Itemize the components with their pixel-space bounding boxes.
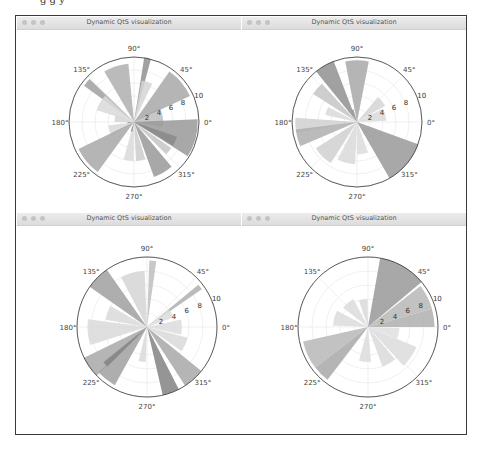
- angle-tick-label: 180°: [60, 324, 77, 332]
- radial-tick-label: 8: [181, 99, 185, 107]
- radial-tick-label: 6: [185, 307, 190, 315]
- radial-tick-label: 10: [212, 295, 221, 303]
- angle-tick-label: 45°: [418, 268, 430, 276]
- angle-tick-label: 90°: [128, 45, 140, 53]
- angle-tick-label: 225°: [296, 171, 313, 179]
- angle-tick-label: 0°: [204, 119, 212, 127]
- radial-tick-label: 4: [157, 109, 162, 117]
- radial-tick-label: 8: [404, 99, 408, 107]
- angle-tick-label: 180°: [281, 324, 298, 332]
- angle-tick-label: 45°: [180, 66, 192, 74]
- polar-chart-1: 0°45°90°135°180°225°270°315°246810: [52, 45, 212, 201]
- angle-tick-label: 90°: [351, 45, 363, 53]
- angle-tick-label: 180°: [275, 119, 292, 127]
- angle-tick-label: 315°: [194, 379, 211, 387]
- radial-tick-label: 4: [380, 109, 385, 117]
- angle-tick-label: 135°: [304, 268, 321, 276]
- radial-tick-label: 10: [194, 92, 203, 100]
- radial-tick-label: 8: [419, 302, 423, 310]
- angle-tick-label: 0°: [222, 324, 230, 332]
- angle-tick-label: 135°: [73, 66, 90, 74]
- angle-tick-label: 315°: [178, 171, 195, 179]
- radial-tick-label: 4: [172, 313, 177, 321]
- polar-bar: [147, 261, 156, 327]
- angle-tick-label: 45°: [403, 66, 415, 74]
- angle-tick-label: 90°: [362, 245, 374, 253]
- radial-tick-label: 10: [417, 92, 426, 100]
- radial-tick-label: 6: [406, 307, 411, 315]
- angle-tick-label: 315°: [415, 379, 432, 387]
- polar-chart-2: 0°45°90°135°180°225°270°315°246810: [275, 45, 435, 201]
- angle-tick-label: 225°: [304, 379, 321, 387]
- radial-tick-label: 2: [368, 114, 372, 122]
- radial-tick-label: 2: [159, 318, 163, 326]
- angle-tick-label: 315°: [401, 171, 418, 179]
- angle-tick-label: 135°: [83, 268, 100, 276]
- angle-tick-label: 0°: [427, 119, 435, 127]
- radial-tick-label: 6: [392, 104, 397, 112]
- angle-tick-label: 90°: [141, 245, 153, 253]
- angle-tick-label: 225°: [83, 379, 100, 387]
- radial-tick-label: 8: [198, 302, 202, 310]
- angle-tick-label: 45°: [197, 268, 209, 276]
- angle-tick-label: 225°: [73, 171, 90, 179]
- radial-tick-label: 2: [145, 114, 149, 122]
- polar-chart-4: 0°45°90°135°180°225°270°315°246810: [281, 245, 451, 411]
- radial-tick-label: 2: [380, 318, 384, 326]
- angle-tick-label: 180°: [52, 119, 69, 127]
- polar-charts: 0°45°90°135°180°225°270°315°2468100°45°9…: [0, 0, 483, 452]
- angle-tick-label: 0°: [443, 324, 451, 332]
- angle-tick-label: 270°: [360, 403, 377, 411]
- radial-tick-label: 6: [169, 104, 174, 112]
- polar-bar: [78, 122, 134, 172]
- radial-tick-label: 10: [433, 295, 442, 303]
- angle-tick-label: 270°: [349, 193, 366, 201]
- polar-chart-3: 0°45°90°135°180°225°270°315°246810: [60, 245, 230, 411]
- angle-tick-label: 270°: [126, 193, 143, 201]
- angle-tick-label: 270°: [139, 403, 156, 411]
- angle-tick-label: 135°: [296, 66, 313, 74]
- radial-tick-label: 4: [393, 313, 398, 321]
